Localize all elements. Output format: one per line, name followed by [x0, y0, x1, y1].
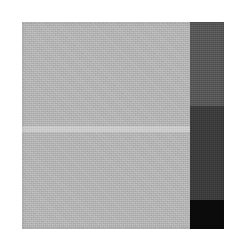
bar-upper-grain-texture [190, 22, 224, 106]
image-plate [22, 22, 224, 229]
stripe-grain-texture [22, 126, 190, 132]
light-horizontal-stripe [22, 126, 190, 132]
bar-segment-middle-dark-gray [190, 106, 224, 200]
bar-segment-upper-dark-gray [190, 22, 224, 106]
bar-lower-grain-texture [190, 200, 224, 229]
right-vertical-bar [190, 22, 224, 229]
bar-middle-grain-texture [190, 106, 224, 200]
figure-root [0, 0, 234, 247]
bar-segment-lower-black [190, 200, 224, 229]
